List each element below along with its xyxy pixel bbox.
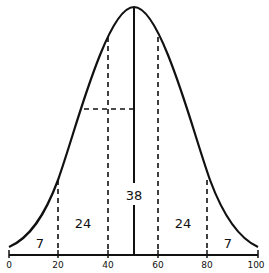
region-label-0-20: 7 xyxy=(36,236,44,251)
bell-curve-diagram: 7 24 38 24 7 0 20 40 60 80 100 xyxy=(0,0,269,273)
tick-label: 20 xyxy=(52,260,64,270)
tick-label: 60 xyxy=(152,260,164,270)
region-label-60-80: 24 xyxy=(175,216,192,231)
tick-label: 0 xyxy=(6,260,12,270)
axis-tick-labels: 0 20 40 60 80 100 xyxy=(6,260,265,270)
tick-label: 40 xyxy=(102,260,114,270)
region-label-80-100: 7 xyxy=(224,236,232,251)
region-label-40-60: 38 xyxy=(126,188,143,203)
tick-label: 80 xyxy=(201,260,213,270)
region-label-20-40: 24 xyxy=(75,216,92,231)
tick-label: 100 xyxy=(247,260,264,270)
